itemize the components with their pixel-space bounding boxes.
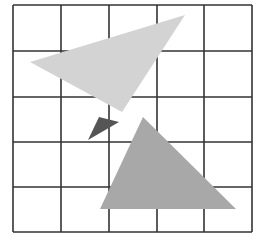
medium-triangle xyxy=(100,117,236,209)
grid-diagram xyxy=(0,0,268,245)
dark-triangle xyxy=(88,117,119,140)
